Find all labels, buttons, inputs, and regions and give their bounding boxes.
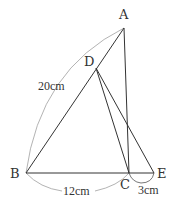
segment-ab <box>26 28 124 173</box>
label-c: C <box>120 177 130 192</box>
measure-ce: 3cm <box>138 183 159 197</box>
arc-bc-left <box>26 173 62 191</box>
segment-ac <box>124 28 129 173</box>
measure-bc: 12cm <box>63 184 90 198</box>
label-b: B <box>10 166 20 181</box>
segment-de <box>96 68 154 173</box>
label-d: D <box>84 54 94 69</box>
geometry-figure: A B C D E 20cm 12cm 3cm <box>0 0 178 208</box>
measure-ab: 20cm <box>38 79 65 93</box>
segment-dc <box>96 68 129 173</box>
label-a: A <box>118 7 129 22</box>
arc-ce <box>129 173 154 183</box>
label-e: E <box>157 166 167 181</box>
